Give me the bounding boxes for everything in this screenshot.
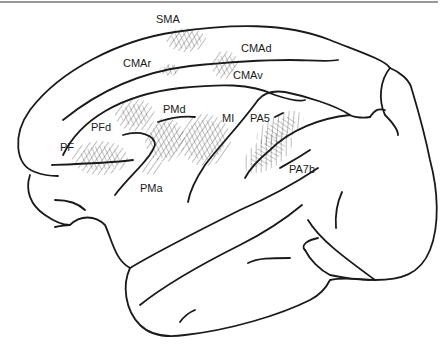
label-pma: PMa bbox=[140, 183, 163, 194]
label-cmar: CMAr bbox=[123, 58, 151, 69]
label-cmad: CMAd bbox=[241, 43, 272, 54]
brain-diagram: SMA CMAr CMAd CMAv PMd PFd PF PMa MI PA5… bbox=[0, 0, 448, 350]
label-pfd: PFd bbox=[91, 122, 111, 133]
label-cmav: CMAv bbox=[233, 70, 263, 81]
occipital-lobe-outline bbox=[305, 68, 437, 280]
temporal-small-sulcus bbox=[180, 310, 195, 322]
label-pf: PF bbox=[60, 142, 74, 153]
frontal-lower-outline bbox=[28, 175, 130, 268]
brain-outline-drawing bbox=[0, 0, 448, 350]
label-pa7b: PA7b bbox=[289, 164, 315, 175]
lunate-sulcus bbox=[370, 68, 398, 135]
parietal-central-line bbox=[336, 192, 342, 228]
sylvian-extension bbox=[303, 238, 318, 250]
label-mi: MI bbox=[222, 113, 234, 124]
occipital-inferior-sulcus bbox=[308, 220, 375, 280]
temporal-notch bbox=[248, 258, 290, 263]
label-pmd: PMd bbox=[163, 104, 186, 115]
label-sma: SMA bbox=[156, 14, 180, 25]
label-pa5: PA5 bbox=[250, 113, 270, 124]
